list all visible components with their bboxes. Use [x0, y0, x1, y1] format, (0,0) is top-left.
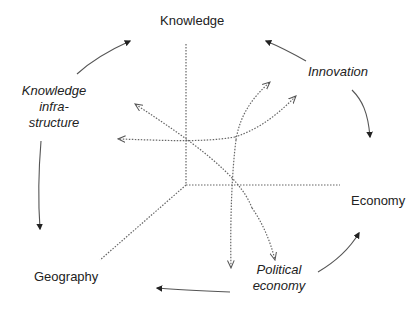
geography-axis — [100, 185, 186, 260]
curve-horizontal — [118, 137, 235, 141]
arrow-to-economy — [352, 90, 370, 137]
curve-horizontal-up — [235, 96, 296, 137]
diagram-canvas — [0, 0, 418, 310]
knowledge-infrastructure-label: Knowledge infra- structure — [20, 83, 88, 131]
political-economy-line-2: economy — [245, 278, 313, 294]
knowledge-infrastructure-line-3: structure — [20, 115, 88, 131]
knowledge-infrastructure-line-2: infra- — [20, 99, 88, 115]
economy-label: Economy — [351, 193, 405, 209]
curve-diagonal-down — [252, 208, 275, 260]
political-economy-line-1: Political — [245, 262, 313, 278]
geography-label: Geography — [34, 269, 98, 285]
curve-vertical-up — [236, 82, 270, 140]
knowledge-label: Knowledge — [160, 13, 224, 29]
political-economy-label: Political economy — [245, 262, 313, 294]
interaction-curves — [118, 82, 296, 268]
knowledge-infrastructure-line-1: Knowledge — [20, 83, 88, 99]
arrow-to-knowledge-left — [77, 41, 130, 74]
arrow-to-geography — [157, 288, 230, 292]
arrow-to-political — [318, 233, 359, 272]
arrow-to-knowledge-right — [266, 41, 306, 61]
axes — [100, 44, 340, 260]
innovation-label: Innovation — [308, 64, 368, 80]
arrow-to-infrastructure-down — [39, 141, 41, 229]
curve-vertical-down — [231, 140, 236, 268]
